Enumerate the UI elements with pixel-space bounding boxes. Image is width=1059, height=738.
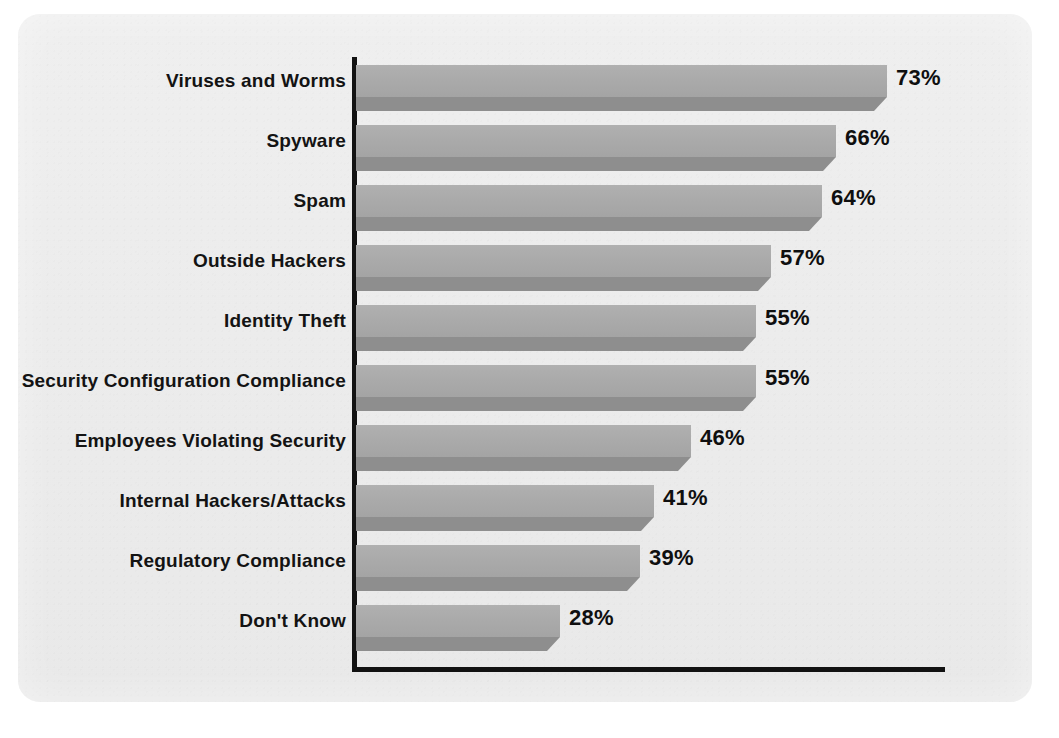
bar-row: Don't Know 28% [0, 601, 1059, 657]
bar-shadow [356, 637, 560, 651]
bar-shadow [356, 517, 654, 531]
bar-face [356, 485, 654, 517]
category-label: Regulatory Compliance [130, 541, 346, 581]
bar-value-label: 55% [765, 301, 810, 335]
bar-value-label: 28% [569, 601, 614, 635]
bar-face [356, 65, 887, 97]
category-label: Viruses and Worms [166, 61, 346, 101]
category-label: Employees Violating Security [75, 421, 346, 461]
bar-row: Regulatory Compliance 39% [0, 541, 1059, 597]
bar-face [356, 125, 836, 157]
category-label: Outside Hackers [193, 241, 346, 281]
bar-shadow [356, 97, 887, 111]
category-label: Spyware [266, 121, 346, 161]
category-label: Don't Know [239, 601, 346, 641]
bar [356, 65, 887, 111]
bar-row: Security Configuration Compliance 55% [0, 361, 1059, 417]
bar-value-label: 64% [831, 181, 876, 215]
bar [356, 365, 756, 411]
category-label: Internal Hackers/Attacks [119, 481, 346, 521]
bar-shadow [356, 277, 771, 291]
bar-shadow [356, 157, 836, 171]
bar-row: Spyware 66% [0, 121, 1059, 177]
bar-face [356, 365, 756, 397]
bar [356, 545, 640, 591]
chart-screenshot: Viruses and Worms 73% Spyware 66% Spam 6… [0, 0, 1059, 738]
bar-face [356, 305, 756, 337]
bar-value-label: 55% [765, 361, 810, 395]
category-label: Spam [293, 181, 346, 221]
bar-value-label: 41% [663, 481, 708, 515]
bar-value-label: 66% [845, 121, 890, 155]
bar-face [356, 185, 822, 217]
bar [356, 485, 654, 531]
bar-face [356, 425, 691, 457]
bar-row: Outside Hackers 57% [0, 241, 1059, 297]
bar-shadow [356, 217, 822, 231]
bar-row: Viruses and Worms 73% [0, 61, 1059, 117]
bar [356, 125, 836, 171]
bar-row: Spam 64% [0, 181, 1059, 237]
bar [356, 605, 560, 651]
bar-shadow [356, 457, 691, 471]
bar-value-label: 73% [896, 61, 941, 95]
bar-face [356, 605, 560, 637]
bar-row: Internal Hackers/Attacks 41% [0, 481, 1059, 537]
bar-row: Employees Violating Security 46% [0, 421, 1059, 477]
bar-face [356, 245, 771, 277]
bar-shadow [356, 577, 640, 591]
bar [356, 245, 771, 291]
bar [356, 425, 691, 471]
bar-value-label: 57% [780, 241, 825, 275]
x-axis-line [352, 667, 945, 672]
category-label: Identity Theft [224, 301, 346, 341]
bar-row: Identity Theft 55% [0, 301, 1059, 357]
chart-plot-area: Viruses and Worms 73% Spyware 66% Spam 6… [0, 0, 1059, 738]
category-label: Security Configuration Compliance [22, 361, 346, 401]
bar-shadow [356, 337, 756, 351]
bar-shadow [356, 397, 756, 411]
bar-value-label: 46% [700, 421, 745, 455]
bar [356, 185, 822, 231]
bar [356, 305, 756, 351]
bar-value-label: 39% [649, 541, 694, 575]
bar-face [356, 545, 640, 577]
